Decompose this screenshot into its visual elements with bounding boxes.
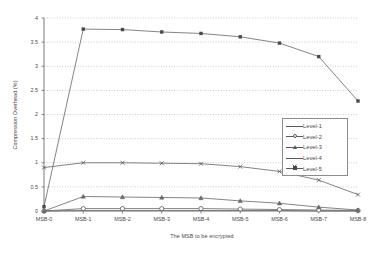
chart-legend: Level-1Level-2Level-3Level-4Level-5 xyxy=(282,118,348,176)
y-tick-label: 1 xyxy=(18,159,38,165)
x-tick-label: MSB-7 xyxy=(299,216,339,222)
legend-label: Level-3 xyxy=(303,144,322,150)
y-tick-label: 3 xyxy=(18,63,38,69)
legend-item-level-2[interactable]: Level-2 xyxy=(283,132,347,143)
legend-marker-icon xyxy=(286,153,303,163)
x-tick-label: MSB-0 xyxy=(24,216,64,222)
x-tick-label: MSB-5 xyxy=(220,216,260,222)
y-tick-label: 1.5 xyxy=(18,135,38,141)
legend-label: Level-5 xyxy=(303,166,322,172)
y-tick-label: 0.5 xyxy=(18,184,38,190)
legend-marker-icon xyxy=(286,164,303,174)
x-tick-label: MSB-6 xyxy=(260,216,300,222)
legend-marker-icon xyxy=(286,132,303,142)
x-tick-label: MSB-2 xyxy=(103,216,143,222)
x-tick-label: MSB-8 xyxy=(338,216,374,222)
axis-lines xyxy=(42,18,359,214)
x-axis-title: The MSB to be encrypted xyxy=(32,233,372,239)
y-tick-label: 2 xyxy=(18,111,38,117)
legend-item-level-5[interactable]: Level-5 xyxy=(283,163,347,174)
y-tick-label: 2.5 xyxy=(18,87,38,93)
x-tick-label: MSB-3 xyxy=(142,216,182,222)
y-tick-label: 0 xyxy=(18,208,38,214)
x-tick-label: MSB-1 xyxy=(63,216,103,222)
legend-item-level-1[interactable]: Level-1 xyxy=(283,121,347,132)
legend-marker-icon xyxy=(286,121,303,131)
legend-marker-icon xyxy=(286,142,303,152)
legend-label: Level-2 xyxy=(303,134,322,140)
legend-label: Level-4 xyxy=(303,155,322,161)
y-tick-label: 3.5 xyxy=(18,39,38,45)
chart-figure: Compression Overhead (%) The MSB to be e… xyxy=(0,0,374,256)
x-tick-label: MSB-4 xyxy=(181,216,221,222)
legend-label: Level-1 xyxy=(303,123,322,129)
legend-item-level-4[interactable]: Level-4 xyxy=(283,153,347,164)
legend-item-level-3[interactable]: Level-3 xyxy=(283,142,347,153)
y-tick-label: 4 xyxy=(18,15,38,21)
